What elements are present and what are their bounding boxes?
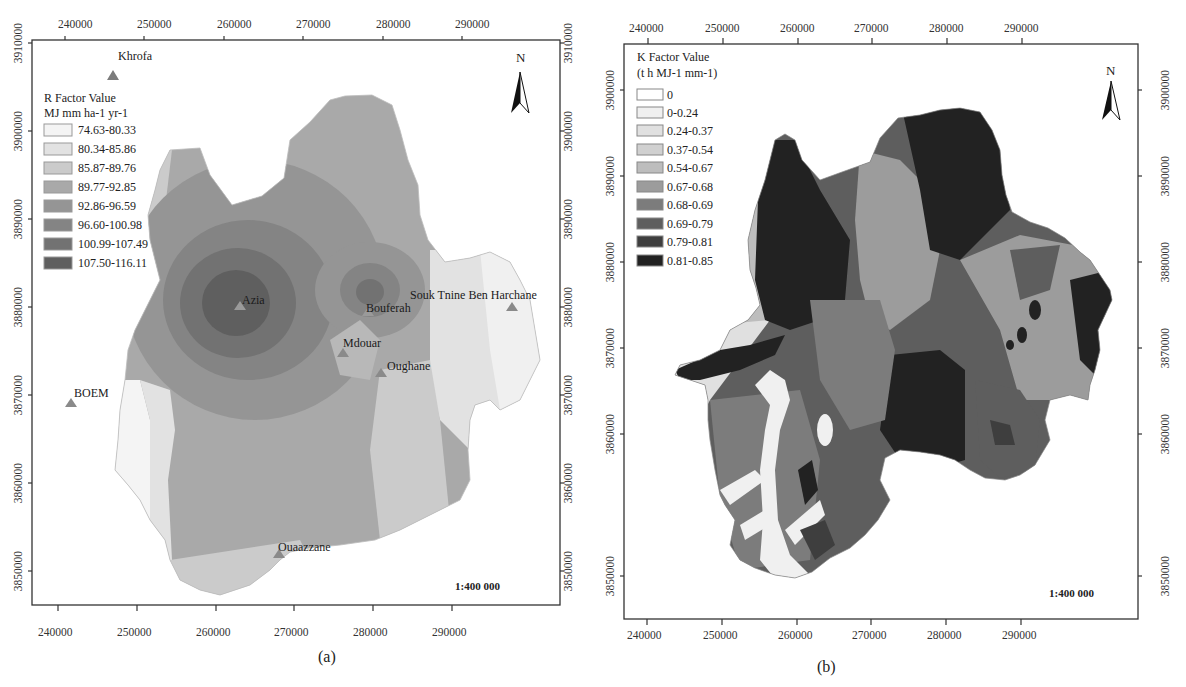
x-tick-label: 260000 <box>196 626 231 638</box>
x-tick-label: 280000 <box>353 626 388 638</box>
x-tick-label: 290000 <box>432 626 467 638</box>
legend-swatch <box>44 181 72 193</box>
legend-swatch <box>44 200 72 212</box>
y-tick-label: 3900000 <box>604 70 616 111</box>
legend-swatch <box>637 199 663 210</box>
legend-swatch <box>44 219 72 231</box>
legend-units: (t h MJ-1 mm-1) <box>637 66 717 80</box>
x-tick-label: 270000 <box>852 629 887 641</box>
x-tick-label: 240000 <box>629 22 664 34</box>
legend-label: 0.79-0.81 <box>667 235 713 249</box>
legend-swatch <box>44 238 72 250</box>
y-tick-label: 3910000 <box>12 23 24 64</box>
legend-label: 0 <box>667 88 673 102</box>
legend-swatch <box>44 143 72 155</box>
y-tick-label: 3880000 <box>1159 242 1171 283</box>
x-tick-label: 280000 <box>927 629 962 641</box>
y-tick-label: 3910000 <box>562 23 574 64</box>
x-tick-label: 290000 <box>455 18 490 30</box>
y-tick-label: 3850000 <box>604 556 616 597</box>
legend-item: 0.37-0.54 <box>637 143 713 157</box>
station-label: Bouferah <box>366 301 411 315</box>
legend-swatch <box>637 125 663 136</box>
r-factor-map-svg: 240000 250000 260000 270000 280000 29000… <box>0 0 580 687</box>
y-tick-label: 3890000 <box>12 199 24 240</box>
legend-item: 89.77-92.85 <box>44 180 136 194</box>
legend-label: 96.60-100.98 <box>78 218 142 232</box>
legend-label: 0-0.24 <box>667 106 698 120</box>
x-tick-label: 270000 <box>854 22 889 34</box>
map-scale: 1:400 000 <box>1049 587 1094 599</box>
panel-caption: (b) <box>817 658 836 676</box>
k-factor-map-svg: 240000 250000 260000 270000 280000 29000… <box>580 0 1186 687</box>
legend-item: 107.50-116.11 <box>44 256 147 270</box>
legend-label: 0.68-0.69 <box>667 198 713 212</box>
legend-swatch <box>637 181 663 192</box>
y-tick-label: 3900000 <box>562 111 574 152</box>
y-axis-left-labels: 3910000 3900000 3890000 3880000 3870000 … <box>12 23 24 592</box>
legend-swatch <box>44 257 72 269</box>
y-tick-label: 3870000 <box>1159 328 1171 369</box>
station-label: Souk Tnine Ben Harchane <box>410 288 537 302</box>
legend-item: 0.68-0.69 <box>637 198 713 212</box>
legend-item: 74.63-80.33 <box>44 123 136 137</box>
legend-item: 0.69-0.79 <box>637 217 713 231</box>
legend-units: MJ mm ha-1 yr-1 <box>44 106 128 120</box>
y-tick-label: 3880000 <box>562 287 574 328</box>
legend-item: 96.60-100.98 <box>44 218 142 232</box>
x-axis-bottom <box>58 605 452 611</box>
y-axis-right-labels: 3900000 3890000 3880000 3870000 3860000 … <box>1159 70 1171 597</box>
station-label: Mdouar <box>343 336 381 350</box>
x-tick-label: 290000 <box>1004 22 1039 34</box>
y-tick-label: 3860000 <box>12 463 24 504</box>
legend-swatch <box>637 236 663 247</box>
legend-item: 100.99-107.49 <box>44 237 148 251</box>
x-tick-label: 260000 <box>778 629 813 641</box>
legend-item: 0.54-0.67 <box>637 161 713 175</box>
x-tick-label: 280000 <box>376 18 411 30</box>
y-axis-right-labels: 3910000 3900000 3890000 3880000 3870000 … <box>562 23 574 592</box>
legend-item: 92.86-96.59 <box>44 199 136 213</box>
panel-b-k-factor-map: 240000 250000 260000 270000 280000 29000… <box>580 0 1186 687</box>
y-tick-label: 3860000 <box>562 463 574 504</box>
y-tick-label: 3870000 <box>562 375 574 416</box>
map-scale: 1:400 000 <box>455 580 500 592</box>
y-tick-label: 3890000 <box>562 199 574 240</box>
y-tick-label: 3900000 <box>1159 70 1171 111</box>
station-label: Azia <box>242 293 265 307</box>
x-tick-label: 280000 <box>929 22 964 34</box>
legend-label: 100.99-107.49 <box>78 237 148 251</box>
x-tick-label: 260000 <box>780 22 815 34</box>
station-label: BOEM <box>74 386 109 400</box>
x-tick-label: 250000 <box>117 626 152 638</box>
legend-label: 74.63-80.33 <box>78 123 136 137</box>
legend-item: 0.81-0.85 <box>637 254 713 268</box>
y-tick-label: 3870000 <box>12 375 24 416</box>
x-axis-bottom-labels: 240000 250000 260000 270000 280000 29000… <box>627 629 1037 641</box>
legend-swatch <box>44 162 72 174</box>
legend-label: 0.81-0.85 <box>667 254 713 268</box>
legend-swatch <box>637 144 663 155</box>
station-label: Khrofa <box>118 49 153 63</box>
north-label: N <box>516 50 526 65</box>
panel-caption: (a) <box>318 648 336 666</box>
y-tick-label: 3850000 <box>1159 556 1171 597</box>
legend-swatch <box>44 124 72 136</box>
legend-title: R Factor Value <box>44 91 116 105</box>
y-tick-label: 3890000 <box>1159 156 1171 197</box>
y-tick-label: 3870000 <box>604 328 616 369</box>
x-tick-label: 270000 <box>296 18 331 30</box>
legend-item: 80.34-85.86 <box>44 142 136 156</box>
legend-label: 0.37-0.54 <box>667 143 713 157</box>
legend-item: 85.87-89.76 <box>44 161 136 175</box>
y-tick-label: 3850000 <box>562 551 574 592</box>
y-tick-label: 3860000 <box>1159 414 1171 455</box>
x-tick-label: 250000 <box>705 22 740 34</box>
station-bouferah: Bouferah <box>362 301 411 316</box>
x-axis-top-labels: 240000 250000 260000 270000 280000 29000… <box>58 18 490 30</box>
station-label: Ouaazzane <box>278 540 331 554</box>
legend-swatch <box>637 89 663 100</box>
y-axis-left-labels: 3900000 3890000 3880000 3870000 3860000 … <box>604 70 616 597</box>
legend-label: 89.77-92.85 <box>78 180 136 194</box>
x-tick-label: 260000 <box>217 18 252 30</box>
